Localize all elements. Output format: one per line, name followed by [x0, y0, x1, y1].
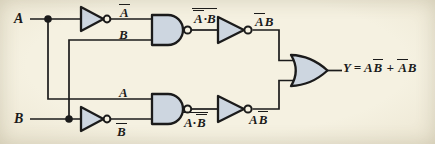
label-bottom-nand-output: A·B: [183, 112, 208, 130]
label-top-inverter-output: AB: [254, 13, 273, 29]
label-b-to-top-nand: B: [119, 28, 128, 42]
nand-gate-top: [152, 15, 183, 45]
wire-bottom-inverter-to-or: [253, 81, 297, 110]
junction-dot-a: [44, 15, 52, 23]
not-gate-top: [81, 7, 104, 31]
label-output-equation: Y = AB + AB: [343, 59, 417, 75]
inverter-top: [218, 17, 244, 43]
label-not-b-output: B: [116, 123, 127, 139]
not-gate-bottom: [81, 107, 104, 131]
wire-a-branch-to-bottom-nand: [48, 19, 152, 99]
label-a-to-bottom-nand: A: [119, 86, 128, 100]
logic-circuit-diagram: A B A B A B A·B A·B AB AB Y = AB + AB: [0, 0, 435, 144]
label-not-a-output: A: [119, 4, 130, 20]
label-top-nand-output: A·B: [192, 8, 217, 26]
label-bottom-inverter-output: AB: [249, 111, 268, 127]
nand-gate-bottom: [152, 94, 183, 124]
not-gate-bottom-bubble: [104, 116, 111, 123]
wire-top-inverter-to-or: [253, 30, 297, 61]
nand-gate-top-bubble: [184, 26, 191, 33]
label-input-b: B: [14, 111, 23, 126]
inverter-top-bubble: [244, 26, 251, 33]
junction-dot-b: [65, 115, 73, 123]
label-input-a: A: [14, 11, 23, 26]
not-gate-top-bubble: [104, 16, 111, 23]
inverter-bottom: [218, 96, 244, 122]
or-gate: [291, 55, 328, 86]
